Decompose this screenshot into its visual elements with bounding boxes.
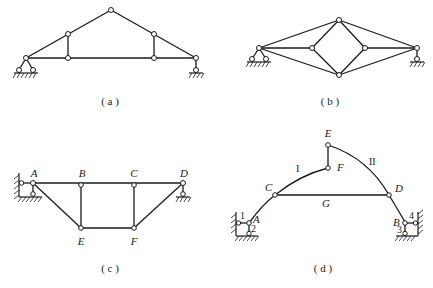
figure-a-truss: ( a ) (13, 8, 204, 109)
node-label-a: A (30, 167, 38, 179)
node-label-f: F (336, 161, 344, 173)
caption-b: ( b ) (321, 95, 340, 108)
roller-support-icon (189, 58, 204, 78)
link-label-2: 2 (251, 223, 256, 234)
pin-support-icon (13, 58, 38, 78)
node-label-c: C (265, 181, 273, 193)
node-label-c: C (130, 167, 138, 179)
figure-d-arch: E F C D G A B I II 1 2 3 4 ( d ) (231, 127, 423, 275)
node-label-f: F (130, 235, 138, 247)
node-label-g: G (322, 197, 330, 209)
node-label-d: D (394, 182, 403, 194)
caption-c: ( c ) (101, 262, 119, 275)
link-label-1: 1 (240, 210, 245, 221)
caption-d: ( d ) (314, 262, 333, 275)
figure-c-truss: A B C D E F ( c ) (14, 167, 191, 275)
link-label-4: 4 (409, 210, 414, 221)
member-label-ii: II (369, 156, 376, 167)
node-label-e: E (77, 235, 85, 247)
node-label-e: E (324, 127, 332, 139)
member-label-i: I (296, 163, 299, 174)
truss-figures: ( a ) (0, 0, 433, 288)
node-label-d: D (179, 167, 188, 179)
link-label-3: 3 (397, 224, 402, 235)
node-label-b: B (79, 167, 86, 179)
figure-b-truss: ( b ) (246, 18, 425, 109)
caption-a: ( a ) (101, 95, 119, 108)
